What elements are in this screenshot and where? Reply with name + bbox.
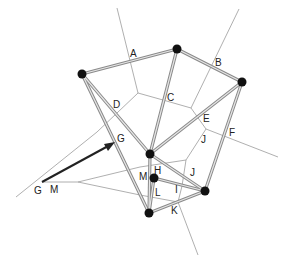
- label-d: D: [113, 99, 120, 110]
- label-h: H: [154, 165, 161, 176]
- node: [145, 209, 154, 218]
- label-m-inner: M: [139, 171, 147, 182]
- label-g-upper: G: [117, 133, 125, 144]
- label-j-lower: J: [190, 167, 195, 178]
- node: [146, 150, 155, 159]
- label-k: K: [171, 205, 178, 216]
- label-g-lower: G: [34, 185, 42, 196]
- delaunay-edges: [82, 49, 242, 213]
- label-j-upper: J: [201, 134, 206, 145]
- node: [201, 187, 210, 196]
- label-b: B: [215, 57, 222, 68]
- voronoi-delaunay-diagram: A B C D E F G J M H J L I K G M: [0, 0, 287, 264]
- label-i: I: [175, 184, 178, 195]
- label-c: C: [167, 92, 174, 103]
- voronoi-edges: [16, 8, 278, 255]
- label-m-outer: M: [50, 184, 58, 195]
- label-a: A: [130, 48, 137, 59]
- node: [78, 70, 87, 79]
- node: [173, 45, 182, 54]
- node: [238, 78, 247, 87]
- label-l: L: [155, 187, 161, 198]
- label-f: F: [229, 127, 235, 138]
- label-e: E: [203, 113, 210, 124]
